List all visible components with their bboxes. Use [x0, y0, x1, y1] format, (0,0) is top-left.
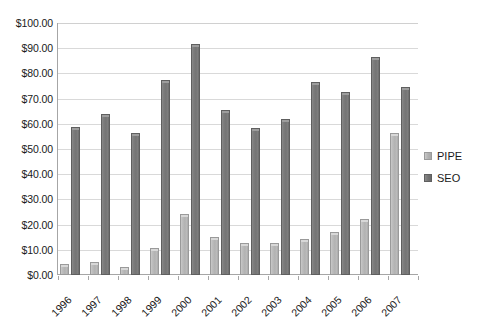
bar-seo-2003 — [281, 119, 290, 275]
bar-pipe-1999 — [150, 248, 159, 275]
bar-cap — [61, 265, 68, 267]
bar-cap — [282, 120, 289, 122]
y-axis-labels: $0.00$10.00$20.00$30.00$40.00$50.00$60.0… — [0, 23, 53, 275]
bar-cap — [91, 263, 98, 265]
bar-cap — [331, 233, 338, 235]
x-axis-tick-label: 2004 — [289, 294, 314, 319]
bar-group — [358, 23, 388, 275]
bar-pipe-2006 — [360, 219, 369, 275]
x-axis-tick-label: 1999 — [139, 294, 164, 319]
legend-swatch-seo-icon — [424, 174, 432, 182]
bar-group — [208, 23, 238, 275]
y-axis-tick-label: $90.00 — [21, 42, 53, 54]
bar-group — [388, 23, 418, 275]
bar-pipe-2000 — [180, 214, 189, 275]
y-axis-tick-label: $10.00 — [21, 244, 53, 256]
x-axis-tick-label: 2001 — [199, 294, 224, 319]
x-axis-tick — [298, 276, 299, 280]
bar-cap — [151, 249, 158, 251]
x-axis-tick — [88, 276, 89, 280]
x-axis-tick — [178, 276, 179, 280]
y-axis-tick-label: $0.00 — [27, 269, 53, 281]
legend-label-seo: SEO — [437, 173, 460, 184]
bar-seo-2007 — [401, 87, 410, 275]
x-axis-tick-label: 2002 — [229, 294, 254, 319]
bar-cap — [181, 215, 188, 217]
bar-seo-1997 — [101, 114, 110, 275]
bar-cap — [372, 58, 379, 60]
bar-cap — [192, 45, 199, 47]
bar-pipe-2004 — [300, 239, 309, 275]
bar-group — [58, 23, 88, 275]
x-axis-tick — [58, 276, 59, 280]
x-axis-tick — [148, 276, 149, 280]
bar-pipe-1998 — [120, 267, 129, 275]
bar-group — [268, 23, 298, 275]
bar-cap — [301, 240, 308, 242]
x-axis-tick-label: 2005 — [319, 294, 344, 319]
x-axis-tick — [268, 276, 269, 280]
bar-cap — [72, 128, 79, 130]
x-axis-labels: 1996199719981999200020012002200320042005… — [58, 277, 418, 329]
bar-cap — [162, 81, 169, 83]
bar-cap — [222, 111, 229, 113]
bar-pipe-1997 — [90, 262, 99, 275]
bar-pipe-2001 — [210, 237, 219, 275]
bar-chart: $0.00$10.00$20.00$30.00$40.00$50.00$60.0… — [0, 0, 489, 332]
bar-cap — [391, 134, 398, 136]
bar-cap — [271, 244, 278, 246]
y-axis-tick-label: $20.00 — [21, 219, 53, 231]
bar-seo-2004 — [311, 82, 320, 275]
x-axis-tick — [388, 276, 389, 280]
bar-pipe-2002 — [240, 243, 249, 275]
bar-group — [238, 23, 268, 275]
bar-seo-2000 — [191, 44, 200, 275]
bar-cap — [211, 238, 218, 240]
y-axis-tick-label: $70.00 — [21, 93, 53, 105]
bar-cap — [342, 93, 349, 95]
bar-cap — [241, 244, 248, 246]
x-axis-tick — [358, 276, 359, 280]
x-axis-tick — [238, 276, 239, 280]
x-axis-tick — [328, 276, 329, 280]
bar-group — [88, 23, 118, 275]
x-axis-tick — [418, 276, 419, 280]
bar-group — [148, 23, 178, 275]
bar-group — [118, 23, 148, 275]
bar-group — [298, 23, 328, 275]
bar-pipe-2005 — [330, 232, 339, 275]
bar-cap — [402, 88, 409, 90]
bar-cap — [252, 129, 259, 131]
bar-pipe-2007 — [390, 133, 399, 275]
bar-cap — [121, 268, 128, 270]
y-axis-tick-label: $100.00 — [16, 17, 53, 29]
bar-seo-1999 — [161, 80, 170, 275]
x-axis-tick-label: 1997 — [79, 294, 104, 319]
legend-item-pipe: PIPE — [424, 145, 486, 167]
chart-legend: PIPE SEO — [424, 145, 486, 189]
y-axis-tick-label: $40.00 — [21, 168, 53, 180]
legend-label-pipe: PIPE — [437, 151, 462, 162]
x-axis-tick — [118, 276, 119, 280]
legend-item-seo: SEO — [424, 167, 486, 189]
y-axis-tick-label: $60.00 — [21, 118, 53, 130]
x-axis-tick — [208, 276, 209, 280]
bar-seo-2005 — [341, 92, 350, 275]
bar-seo-2001 — [221, 110, 230, 275]
legend-swatch-pipe-icon — [424, 152, 432, 160]
y-axis-tick-label: $50.00 — [21, 143, 53, 155]
x-axis-tick-label: 1996 — [49, 294, 74, 319]
y-axis-tick-label: $80.00 — [21, 67, 53, 79]
x-axis-tick-label: 2003 — [259, 294, 284, 319]
x-axis-tick-label: 2000 — [169, 294, 194, 319]
bar-pipe-2003 — [270, 243, 279, 275]
x-axis-tick-label: 2007 — [379, 294, 404, 319]
bar-seo-2006 — [371, 57, 380, 275]
x-axis-tick-label: 1998 — [109, 294, 134, 319]
x-axis-tick-label: 2006 — [349, 294, 374, 319]
bar-seo-1996 — [71, 127, 80, 275]
bar-groups — [58, 23, 418, 275]
bar-cap — [361, 220, 368, 222]
bar-seo-2002 — [251, 128, 260, 275]
bar-seo-1998 — [131, 133, 140, 275]
